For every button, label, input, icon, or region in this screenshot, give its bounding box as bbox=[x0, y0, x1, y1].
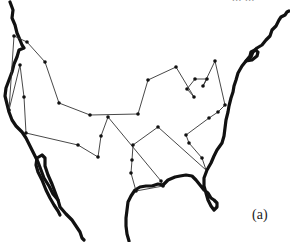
figure-caption: (a) bbox=[252, 207, 268, 223]
cropped-header-text: ... ... bbox=[232, 0, 255, 3]
us-route-map: ... ... (a) bbox=[0, 0, 290, 242]
map-svg bbox=[0, 0, 290, 242]
